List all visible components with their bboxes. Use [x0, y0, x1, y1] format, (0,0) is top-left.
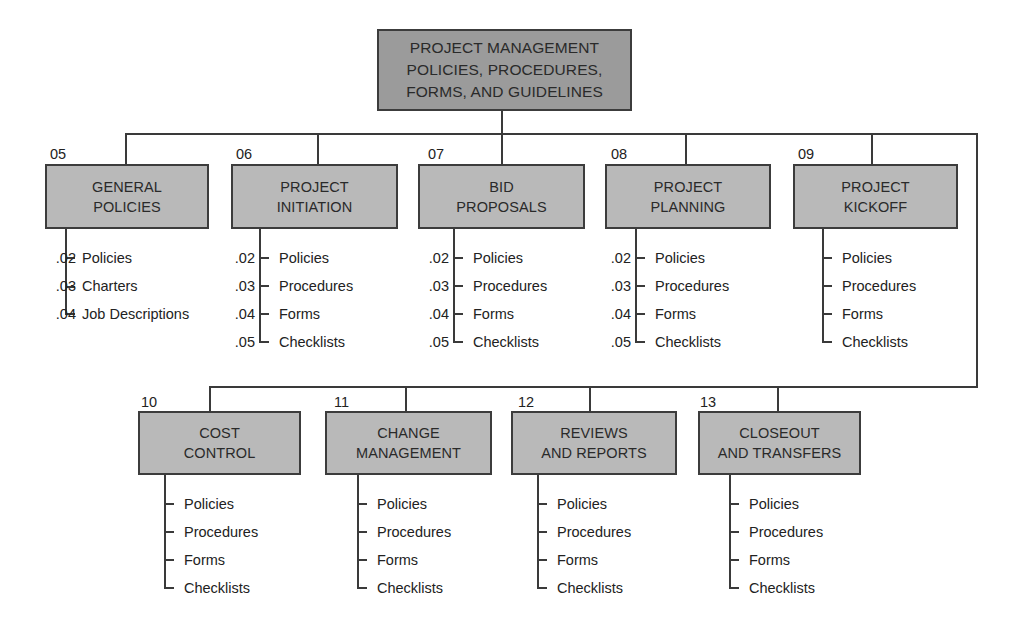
item-number: .03 — [56, 277, 76, 295]
right-return-line — [976, 133, 978, 388]
item-number: .04 — [56, 305, 76, 323]
list-item: Procedures — [749, 523, 823, 541]
item-number: .02 — [235, 249, 255, 267]
list-item: Procedures — [557, 523, 631, 541]
item-label: Policies — [749, 496, 799, 512]
list-item: .02Policies — [279, 249, 329, 267]
list-tick — [636, 341, 645, 343]
node-code: 09 — [798, 146, 814, 162]
item-label: Checklists — [842, 334, 908, 350]
list-tick — [538, 559, 547, 561]
node-project-planning: PROJECT PLANNING — [605, 164, 771, 229]
item-label: Job Descriptions — [82, 306, 189, 322]
list-item: Forms — [377, 551, 418, 569]
list-tick — [454, 313, 463, 315]
item-label: Checklists — [279, 334, 345, 350]
list-item: Checklists — [749, 579, 815, 597]
item-number: .04 — [429, 305, 449, 323]
list-item: .04Forms — [655, 305, 696, 323]
node-project-kickoff: PROJECT KICKOFF — [793, 164, 958, 229]
item-number: .03 — [429, 277, 449, 295]
item-label: Forms — [279, 306, 320, 322]
list-tick — [823, 285, 832, 287]
item-label: Procedures — [473, 278, 547, 294]
item-label: Procedures — [184, 524, 258, 540]
list-item: .04Forms — [473, 305, 514, 323]
list-item: .02Policies — [82, 249, 132, 267]
item-number: .02 — [56, 249, 76, 267]
list-tick — [260, 257, 269, 259]
list-item: .05Checklists — [473, 333, 539, 351]
list-tick — [358, 531, 367, 533]
list-item: .05Checklists — [279, 333, 345, 351]
stem-13 — [777, 386, 779, 412]
item-label: Procedures — [749, 524, 823, 540]
item-number: .05 — [429, 333, 449, 351]
item-label: Policies — [557, 496, 607, 512]
bottom-bus — [209, 386, 978, 388]
node-code: 08 — [611, 146, 627, 162]
stem-05 — [125, 133, 127, 165]
list-item: .04Job Descriptions — [82, 305, 189, 323]
stem-12 — [589, 386, 591, 412]
top-bus — [125, 133, 978, 135]
list-tick — [260, 341, 269, 343]
node-code: 10 — [141, 394, 157, 410]
list-item: .03Charters — [82, 277, 138, 295]
list-item: Procedures — [184, 523, 258, 541]
item-label: Procedures — [279, 278, 353, 294]
list-spine — [65, 229, 67, 315]
list-item: .03Procedures — [279, 277, 353, 295]
node-code: 13 — [700, 394, 716, 410]
node-code: 05 — [50, 146, 66, 162]
list-tick — [358, 587, 367, 589]
list-item: Policies — [377, 495, 427, 513]
list-item: .02Policies — [473, 249, 523, 267]
node-label: PROJECT INITIATION — [277, 177, 353, 217]
node-change-management: CHANGE MANAGEMENT — [325, 411, 492, 475]
node-code: 07 — [428, 146, 444, 162]
list-tick — [636, 257, 645, 259]
item-label: Procedures — [557, 524, 631, 540]
node-label: PROJECT KICKOFF — [841, 177, 909, 217]
item-label: Forms — [184, 552, 225, 568]
item-number: .04 — [611, 305, 631, 323]
item-label: Forms — [377, 552, 418, 568]
stem-07 — [501, 133, 503, 165]
item-label: Policies — [842, 250, 892, 266]
list-item: .05Checklists — [655, 333, 721, 351]
item-label: Checklists — [557, 580, 623, 596]
item-label: Forms — [749, 552, 790, 568]
node-bid-proposals: BID PROPOSALS — [418, 164, 585, 229]
item-label: Checklists — [377, 580, 443, 596]
node-label: CHANGE MANAGEMENT — [356, 423, 461, 463]
list-tick — [538, 587, 547, 589]
list-tick — [260, 313, 269, 315]
node-reviews-and-reports: REVIEWS AND REPORTS — [511, 411, 677, 475]
item-number: .03 — [235, 277, 255, 295]
node-label: PROJECT PLANNING — [651, 177, 726, 217]
item-label: Policies — [279, 250, 329, 266]
item-label: Checklists — [184, 580, 250, 596]
list-tick — [165, 587, 174, 589]
list-item: Procedures — [377, 523, 451, 541]
item-number: .02 — [429, 249, 449, 267]
list-item: Checklists — [842, 333, 908, 351]
list-item: Procedures — [842, 277, 916, 295]
root-node-label: PROJECT MANAGEMENT POLICIES, PROCEDURES,… — [406, 37, 603, 103]
node-label: GENERAL POLICIES — [92, 177, 162, 217]
item-label: Charters — [82, 278, 138, 294]
item-label: Forms — [842, 306, 883, 322]
node-code: 06 — [236, 146, 252, 162]
list-item: .03Procedures — [655, 277, 729, 295]
node-label: COST CONTROL — [184, 423, 256, 463]
item-label: Policies — [655, 250, 705, 266]
list-tick — [823, 313, 832, 315]
list-item: Forms — [749, 551, 790, 569]
list-tick — [454, 341, 463, 343]
list-item: Policies — [184, 495, 234, 513]
list-item: Forms — [184, 551, 225, 569]
list-tick — [358, 559, 367, 561]
list-tick — [636, 285, 645, 287]
list-tick — [538, 503, 547, 505]
